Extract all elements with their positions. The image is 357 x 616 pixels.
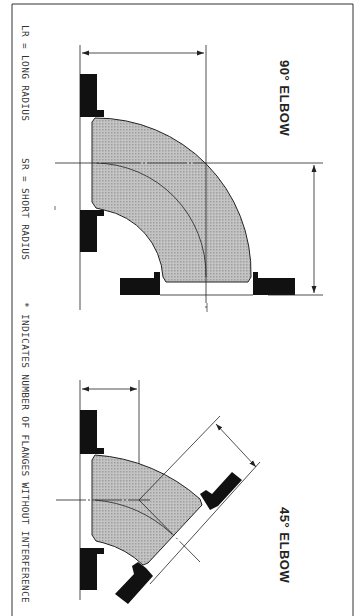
legend-note: * INDICATES NUMBER OF FLANGES WITHOUT IN…	[20, 302, 31, 603]
legend-long-radius: LR = LONG RADIUS	[20, 25, 31, 121]
drawing-svg	[0, 0, 357, 616]
legend-short-radius: SR = SHORT RADIUS	[20, 158, 31, 260]
elbow-45-drawing	[56, 380, 260, 604]
elbow-diagram-sheet: LR = LONG RADIUS SR = SHORT RADIUS * IND…	[0, 0, 357, 616]
title-90-elbow: 90° ELBOW	[277, 60, 292, 136]
title-45-elbow: 45° ELBOW	[277, 507, 292, 583]
